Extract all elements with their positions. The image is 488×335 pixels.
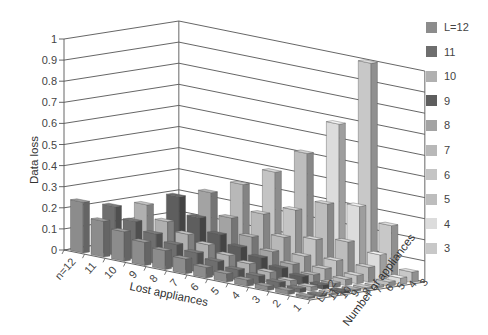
z-axis-label: Data loss <box>28 136 40 184</box>
x-tick-mark <box>124 263 126 267</box>
legend-swatch <box>426 71 437 82</box>
legend-swatch <box>426 169 437 180</box>
legend-swatch <box>426 22 437 33</box>
x-tick-label: 7 <box>167 276 180 289</box>
x-tick-mark <box>83 254 85 258</box>
x-tick-label: n=12 <box>52 255 77 281</box>
z-tick-label: 0.9 <box>42 54 57 66</box>
bar <box>71 199 90 253</box>
legend-swatch <box>426 46 437 57</box>
x-tick-label: 10 <box>102 264 119 281</box>
x-axis-label: Lost appliances <box>128 280 209 308</box>
z-axis-ticks: 00.10.20.30.40.50.60.70.80.91 <box>42 33 64 256</box>
legend-label: L=12 <box>444 21 469 33</box>
legend-item: 9 <box>426 94 450 108</box>
z-tick-label: 0.4 <box>42 160 57 172</box>
legend-item: 6 <box>426 168 450 182</box>
legend-label: 4 <box>444 218 450 230</box>
x-tick-label: 9 <box>126 268 139 281</box>
legend-swatch <box>426 218 437 229</box>
z-tick-label: 1 <box>51 33 57 45</box>
x-tick-label: 3 <box>249 293 262 306</box>
bar <box>153 247 172 270</box>
bar <box>173 256 192 274</box>
legend-item: 3 <box>426 241 450 255</box>
bar <box>91 218 110 257</box>
z-tick-label: 0.8 <box>42 75 57 87</box>
legend-label: 11 <box>444 46 455 58</box>
legend-item: 11 <box>426 45 455 59</box>
legend-label: 10 <box>444 70 456 82</box>
chart-bars <box>71 60 419 299</box>
bar <box>132 239 151 266</box>
x-tick-label: 5 <box>208 285 221 298</box>
legend-item: 8 <box>426 118 450 132</box>
x-tick-mark <box>185 275 187 279</box>
legend-item: L=12 <box>426 20 469 34</box>
x-tick-mark <box>103 258 105 262</box>
legend-label: 3 <box>444 242 450 254</box>
x-tick-mark <box>247 288 249 292</box>
legend-item: 4 <box>426 217 450 231</box>
bar3d-chart: 00.10.20.30.40.50.60.70.80.91 n=12111098… <box>0 0 488 335</box>
legend-swatch <box>426 145 437 156</box>
x-tick-label: 1 <box>290 301 303 314</box>
legend-label: 8 <box>444 119 450 131</box>
legend-label: 7 <box>444 144 450 156</box>
x-tick-mark <box>267 292 269 296</box>
z-tick-label: 0.7 <box>42 96 57 108</box>
z-tick-label: 0 <box>51 244 57 256</box>
legend-label: 6 <box>444 169 450 181</box>
x-tick-mark <box>288 296 290 300</box>
legend-swatch <box>426 243 437 254</box>
bar <box>194 264 213 278</box>
y-tick-label: 3 <box>417 276 430 288</box>
x-tick-mark <box>144 267 146 271</box>
z-tick-label: 0.3 <box>42 181 57 193</box>
legend-label: 9 <box>444 95 450 107</box>
legend-item: 10 <box>426 69 456 83</box>
x-tick-label: 6 <box>188 280 201 293</box>
legend-swatch <box>426 95 437 106</box>
x-tick-label: 11 <box>82 260 99 277</box>
bar <box>112 228 131 261</box>
legend-label: 5 <box>444 193 450 205</box>
x-tick-label: 4 <box>229 289 242 302</box>
z-tick-label: 0.6 <box>42 117 57 129</box>
z-tick-label: 0.1 <box>42 223 57 235</box>
x-tick-mark <box>308 300 310 304</box>
legend-item: 5 <box>426 192 450 206</box>
x-tick-mark <box>165 271 167 275</box>
x-tick-mark <box>206 279 208 283</box>
x-tick-mark <box>62 250 64 254</box>
x-tick-mark <box>226 283 228 287</box>
legend-item: 7 <box>426 143 450 157</box>
legend-swatch <box>426 194 437 205</box>
x-tick-label: 2 <box>270 297 283 310</box>
z-tick-label: 0.5 <box>42 139 57 151</box>
z-tick-label: 0.2 <box>42 202 57 214</box>
legend-swatch <box>426 120 437 131</box>
